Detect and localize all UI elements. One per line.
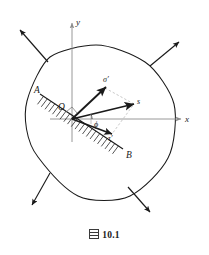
stress-diagram: y x O A B σ′ s τ′ ϕ xyxy=(0,0,209,255)
vector-label-tau-prime: τ′ xyxy=(108,134,113,143)
x-axis-label: x xyxy=(184,114,189,124)
stress-vectors xyxy=(72,87,134,134)
vector-label-s: s xyxy=(137,97,140,106)
origin-label: O xyxy=(58,102,65,112)
cut-plane-AB xyxy=(38,94,124,154)
y-axis-label: y xyxy=(75,17,80,27)
coordinate-axes xyxy=(50,23,181,142)
figure-caption-number: 10.1 xyxy=(102,230,119,240)
traction-arrow-lower-left xyxy=(32,173,50,205)
cut-plane-hatching xyxy=(38,96,119,154)
traction-arrows xyxy=(20,30,179,212)
angle-label-phi: ϕ xyxy=(94,120,98,129)
cut-plane-label-B: B xyxy=(126,150,132,160)
cut-plane-label-A: A xyxy=(33,85,40,95)
figure-caption-symbol xyxy=(89,229,99,239)
figure-container: y x O A B σ′ s τ′ ϕ 10.1 xyxy=(0,0,209,255)
traction-arrow-upper-left xyxy=(20,30,48,62)
vector-label-sigma-prime: σ′ xyxy=(103,75,109,84)
traction-arrow-upper-right xyxy=(150,42,179,66)
figure-caption: 10.1 xyxy=(0,228,209,240)
vector-tau-prime xyxy=(72,119,112,134)
